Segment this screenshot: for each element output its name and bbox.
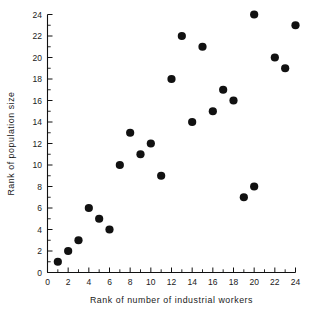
data-point — [147, 139, 155, 147]
data-point — [54, 258, 62, 266]
x-axis-tick-label: 0 — [45, 277, 50, 287]
data-point — [271, 53, 279, 61]
data-point — [157, 172, 165, 180]
data-point — [95, 215, 103, 223]
x-axis-tick-label: 4 — [86, 277, 91, 287]
x-axis-tick-label: 18 — [229, 277, 239, 287]
y-axis-tick-label: 20 — [33, 53, 43, 63]
data-point — [178, 32, 186, 40]
x-axis-tick-label: 10 — [146, 277, 156, 287]
data-point — [281, 64, 289, 72]
y-axis-title: Rank of population size — [6, 91, 16, 195]
x-axis-tick-label: 14 — [187, 277, 197, 287]
data-point — [105, 225, 113, 233]
x-axis-tick-label: 8 — [128, 277, 133, 287]
y-axis-tick-label: 8 — [37, 182, 42, 192]
data-point — [240, 193, 248, 201]
data-point — [116, 161, 124, 169]
x-axis-tick-label: 16 — [208, 277, 218, 287]
x-axis-tick-label: 24 — [291, 277, 301, 287]
data-point — [209, 107, 217, 115]
y-axis-tick-label: 6 — [37, 203, 42, 213]
y-axis-tick-label: 0 — [37, 268, 42, 278]
y-axis-tick-label: 2 — [37, 246, 42, 256]
data-point — [136, 150, 144, 158]
y-axis-tick-label: 10 — [33, 160, 43, 170]
y-axis-tick-label: 4 — [37, 225, 42, 235]
x-axis-tick-label: 22 — [270, 277, 280, 287]
data-series — [54, 10, 300, 265]
data-point — [188, 118, 196, 126]
data-point — [126, 129, 134, 137]
x-axis-tick-label: 6 — [107, 277, 112, 287]
data-point — [250, 182, 258, 190]
y-axis-tick-label: 16 — [33, 96, 43, 106]
data-point — [291, 21, 299, 29]
x-axis-tick-label: 20 — [249, 277, 259, 287]
data-point — [64, 247, 72, 255]
data-point — [74, 236, 82, 244]
plot-canvas: 0246810121416182022240246810121416182022… — [0, 0, 314, 315]
data-point — [229, 96, 237, 104]
y-axis-tick-label: 14 — [33, 117, 43, 127]
scatter-plot-figure: 0246810121416182022240246810121416182022… — [0, 0, 314, 315]
y-axis-tick-label: 12 — [33, 139, 43, 149]
data-point — [250, 10, 258, 18]
y-axis-tick-label: 22 — [33, 31, 43, 41]
y-axis-tick-label: 24 — [33, 10, 43, 20]
x-axis-tick-label: 2 — [66, 277, 71, 287]
data-point — [198, 43, 206, 51]
data-point — [85, 204, 93, 212]
data-point — [219, 86, 227, 94]
y-axis-tick-label: 18 — [33, 74, 43, 84]
data-point — [167, 75, 175, 83]
x-axis-title: Rank of number of industrial workers — [90, 295, 253, 305]
x-axis-tick-label: 12 — [167, 277, 177, 287]
